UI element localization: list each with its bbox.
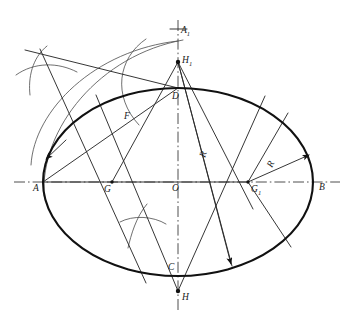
bisector-arc-upper-left-a bbox=[16, 65, 77, 75]
label-g-left: G bbox=[104, 184, 111, 194]
label-h1-top: H1 bbox=[181, 55, 192, 67]
line-h1-to-g1-extended bbox=[178, 62, 253, 209]
radius-leader-large-r bbox=[248, 155, 309, 182]
construction-arcs bbox=[16, 39, 183, 248]
label-o-center: O bbox=[172, 183, 179, 193]
line-a-d-extended bbox=[25, 50, 178, 88]
line-a-to-d bbox=[43, 88, 178, 182]
label-c-bottom: C bbox=[168, 262, 175, 272]
radius-leader-small-r bbox=[178, 62, 231, 264]
label-a1-top: A1 bbox=[180, 25, 190, 37]
label-radius-large: R bbox=[264, 159, 276, 170]
label-d-top: D bbox=[171, 91, 179, 101]
label-f-point: F bbox=[123, 111, 130, 121]
point-h1 bbox=[176, 60, 180, 64]
line-upper-left-through-g bbox=[40, 49, 146, 283]
label-h-bottom: H bbox=[181, 292, 190, 302]
drawing-canvas: A B A1 H1 H D C O bbox=[0, 0, 353, 324]
label-group: A B A1 H1 H D C O bbox=[32, 25, 325, 302]
label-g1-right: G1 bbox=[251, 184, 261, 196]
arc-major-secondary bbox=[44, 40, 183, 196]
ellipse-construction-figure: A B A1 H1 H D C O bbox=[0, 0, 353, 324]
label-radius-small: R bbox=[197, 150, 209, 160]
point-g1 bbox=[246, 180, 249, 183]
point-h bbox=[176, 289, 180, 293]
bisector-arc-lower-mid-a bbox=[120, 217, 166, 224]
construction-lines bbox=[25, 49, 291, 291]
label-a-left: A bbox=[32, 183, 39, 193]
label-b-right: B bbox=[319, 182, 325, 192]
